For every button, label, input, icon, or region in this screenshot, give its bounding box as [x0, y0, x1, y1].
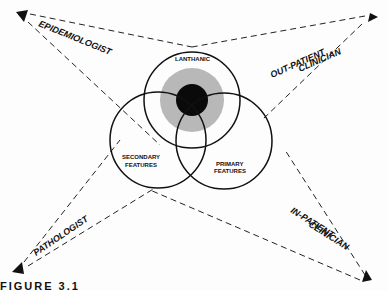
- secondary-label-2: FEATURES: [125, 162, 157, 168]
- secondary-label-1: SECONDARY: [122, 154, 160, 160]
- figure-caption: FIGURE 3.1: [0, 280, 80, 291]
- eye-icon-top-left: [16, 10, 28, 22]
- eye-icon-top-right: [368, 13, 378, 22]
- black-core: [176, 84, 208, 116]
- pathologist-label: PATHOLOGIST: [32, 213, 92, 258]
- epidemiologist-label: EPIDEMIOLOGIST: [37, 19, 114, 58]
- primary-features-circle: [176, 93, 272, 189]
- lanthanic-label: LANTHANIC: [175, 56, 211, 62]
- venn-diagram: LANTHANIC SECONDARY FEATURES PRIMARY FEA…: [0, 0, 388, 291]
- diagram: LANTHANIC SECONDARY FEATURES PRIMARY FEA…: [0, 0, 388, 291]
- eye-icon-bottom-left: [12, 262, 24, 274]
- primary-label-1: PRIMARY: [216, 161, 243, 167]
- clinician-label-bottom: CLINICIAN: [307, 219, 351, 252]
- primary-label-2: FEATURES: [214, 168, 246, 174]
